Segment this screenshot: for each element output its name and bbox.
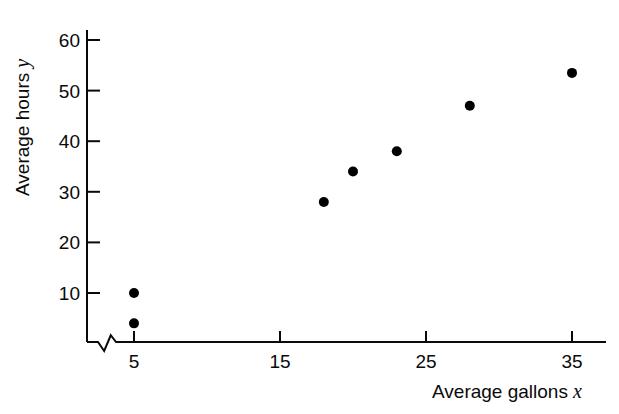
x-tick-label: 35 xyxy=(561,352,582,371)
y-tick-label: 30 xyxy=(40,182,80,201)
data-point xyxy=(319,197,329,207)
y-axis-title-text: Average hours xyxy=(12,73,33,196)
y-tick-label: 20 xyxy=(40,233,80,252)
y-tick-label: 10 xyxy=(40,284,80,303)
y-tick-label: 40 xyxy=(40,132,80,151)
data-point xyxy=(465,101,475,111)
tick-marks xyxy=(87,40,572,342)
data-point xyxy=(129,318,139,328)
plot-canvas xyxy=(0,0,619,414)
data-point xyxy=(129,288,139,298)
data-point xyxy=(348,167,358,177)
x-tick-label: 5 xyxy=(129,352,140,371)
data-point xyxy=(567,68,577,78)
scatter-plot-figure: 102030405060 5152535 Average hoursy Aver… xyxy=(0,0,619,414)
axis-lines xyxy=(87,30,606,351)
x-tick-label: 25 xyxy=(415,352,436,371)
x-tick-label: 15 xyxy=(269,352,290,371)
y-tick-label: 60 xyxy=(40,31,80,50)
x-axis-variable: x xyxy=(568,380,582,402)
x-axis-title: Average gallonsx xyxy=(432,381,582,401)
y-axis-title: Average hoursy xyxy=(12,59,32,196)
y-axis-variable: y xyxy=(11,59,33,73)
data-point-group xyxy=(129,68,577,328)
x-axis-title-text: Average gallons xyxy=(432,381,568,402)
y-tick-label: 50 xyxy=(40,81,80,100)
data-point xyxy=(392,146,402,156)
